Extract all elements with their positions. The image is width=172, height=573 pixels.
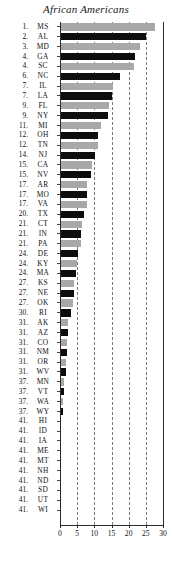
state-label: MN <box>30 377 56 387</box>
state-label: OR <box>30 357 56 367</box>
rank-label: 31. <box>0 347 28 357</box>
bar <box>60 191 87 198</box>
bar <box>60 73 120 80</box>
state-label: CO <box>30 338 56 348</box>
bar-track <box>60 416 172 426</box>
bar-track <box>60 495 172 505</box>
bar-track <box>60 407 172 417</box>
bar-track <box>60 318 172 328</box>
x-tick <box>94 525 95 528</box>
bar-row: 24.KY <box>0 259 172 269</box>
bar-row: 17.MO <box>0 190 172 200</box>
rank-label: 24. <box>0 268 28 278</box>
state-label: KS <box>30 278 56 288</box>
bar <box>60 319 68 326</box>
rank-label: 17. <box>0 180 28 190</box>
bar-row: 12.TN <box>0 140 172 150</box>
bar-track <box>60 298 172 308</box>
bar-row: 9.NY <box>0 111 172 121</box>
plot-area: 1.MS2.AL3.MD4.GA4.SC6.NC7.IL7.LA9.FL9.NY… <box>0 22 172 525</box>
bar-row: 11.MI <box>0 121 172 131</box>
bar <box>60 43 140 50</box>
state-label: AL <box>30 32 56 42</box>
state-label: RI <box>30 308 56 318</box>
bar-track <box>60 436 172 446</box>
bar <box>60 250 78 257</box>
bar-track <box>60 466 172 476</box>
rank-label: 41. <box>0 426 28 436</box>
state-label: ID <box>30 426 56 436</box>
state-label: MD <box>30 42 56 52</box>
state-label: IA <box>30 436 56 446</box>
x-tick <box>129 525 130 528</box>
rank-label: 7. <box>0 81 28 91</box>
bar-track <box>60 476 172 486</box>
bar-row: 7.LA <box>0 91 172 101</box>
bar-track <box>60 111 172 121</box>
bar-row: 4.GA <box>0 52 172 62</box>
bar-row: 27.OK <box>0 298 172 308</box>
bar-row: 20.TX <box>0 209 172 219</box>
state-label: GA <box>30 52 56 62</box>
rank-label: 41. <box>0 436 28 446</box>
state-label: HI <box>30 416 56 426</box>
state-label: WA <box>30 397 56 407</box>
state-label: VT <box>30 387 56 397</box>
state-label: KY <box>30 259 56 269</box>
state-label: AR <box>30 180 56 190</box>
x-tick-label: 30 <box>153 529 172 538</box>
bar-track <box>60 485 172 495</box>
bar-track <box>60 347 172 357</box>
rank-label: 14. <box>0 150 28 160</box>
bar-row: 3.MD <box>0 42 172 52</box>
bar-row: 21.CT <box>0 219 172 229</box>
plot-right-border <box>163 22 164 525</box>
x-tick <box>77 525 78 528</box>
rank-label: 27. <box>0 288 28 298</box>
bar-track <box>60 91 172 101</box>
bar <box>60 329 68 336</box>
rank-label: 2. <box>0 32 28 42</box>
state-label: MT <box>30 456 56 466</box>
rank-label: 17. <box>0 190 28 200</box>
bar-track <box>60 180 172 190</box>
bar <box>60 161 92 168</box>
bar-row: 31.AZ <box>0 328 172 338</box>
state-label: MA <box>30 268 56 278</box>
bar-row: 7.IL <box>0 81 172 91</box>
bar-track <box>60 81 172 91</box>
state-label: DE <box>30 249 56 259</box>
bar <box>60 309 71 316</box>
state-label: ND <box>30 476 56 486</box>
bar <box>60 299 73 306</box>
rank-label: 4. <box>0 61 28 71</box>
bar-track <box>60 338 172 348</box>
bar-row: 41.ID <box>0 426 172 436</box>
bar-track <box>60 101 172 111</box>
bar <box>60 201 87 208</box>
bar-row: 15.NV <box>0 170 172 180</box>
state-label: PA <box>30 239 56 249</box>
state-label: OH <box>30 130 56 140</box>
chart-container: African Americans 1.MS2.AL3.MD4.GA4.SC6.… <box>0 0 172 573</box>
state-label: NY <box>30 111 56 121</box>
state-label: AK <box>30 318 56 328</box>
rank-label: 12. <box>0 140 28 150</box>
bar <box>60 122 101 129</box>
state-label: AZ <box>30 328 56 338</box>
state-label: TN <box>30 140 56 150</box>
bar-row: 17.AR <box>0 180 172 190</box>
x-tick <box>60 525 61 528</box>
state-label: MO <box>30 190 56 200</box>
rank-label: 21. <box>0 229 28 239</box>
bar <box>60 142 98 149</box>
bar-row: 1.MS <box>0 22 172 32</box>
bar-row: 41.IA <box>0 436 172 446</box>
x-tick <box>163 525 164 528</box>
bar-track <box>60 308 172 318</box>
bar-track <box>60 170 172 180</box>
state-label: SC <box>30 61 56 71</box>
rank-label: 31. <box>0 367 28 377</box>
bar-track <box>60 199 172 209</box>
rank-label: 41. <box>0 476 28 486</box>
